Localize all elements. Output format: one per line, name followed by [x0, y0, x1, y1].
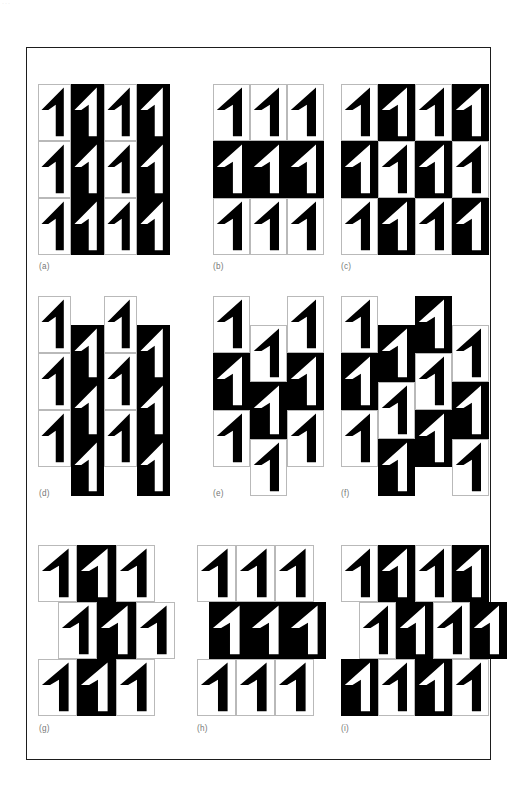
figure-b-cell-r1c3 [287, 84, 324, 141]
figure-i-cell-r3c2 [378, 659, 415, 716]
numeral-one-glyph [39, 85, 70, 140]
figure-d-cell-r1c1 [38, 296, 71, 353]
figure-e-cell-r2c1 [213, 353, 250, 410]
figure-e-cell-r3c2 [250, 439, 287, 496]
numeral-one-glyph [342, 199, 377, 254]
numeral-one-glyph [138, 383, 169, 438]
figure-c-cell-r3c3 [415, 198, 452, 255]
numeral-one-glyph [276, 546, 313, 601]
numeral-one-glyph [198, 660, 235, 715]
figure-g-cell-r3c2 [77, 659, 116, 716]
numeral-one-glyph [342, 85, 377, 140]
figure-f-cell-r2c4 [452, 382, 489, 439]
figure-g-cell-r2c1 [58, 602, 97, 659]
figure-a-cell-r2c3 [104, 141, 137, 198]
numeral-one-glyph [342, 354, 377, 409]
figure-f-cell-r2c1 [341, 353, 378, 410]
figure-c-cell-r2c2 [378, 141, 415, 198]
figure-a-cell-r1c4 [137, 84, 170, 141]
figure-f-cell-r3c1 [341, 410, 378, 467]
numeral-one-glyph [39, 660, 76, 715]
figure-i-cell-r1c3 [415, 545, 452, 602]
figures-layer: (a)(b)(c)(d)(e)(f)(g)(h)(i) [0, 0, 515, 796]
figure-e-cell-r1c2 [250, 325, 287, 382]
figure-f-cell-r1c3 [415, 296, 452, 353]
numeral-one-glyph [39, 546, 76, 601]
numeral-one-glyph [251, 85, 286, 140]
numeral-one-glyph [288, 411, 323, 466]
figure-h-cell-r3c3 [275, 659, 314, 716]
figure-i-cell-r3c1 [341, 659, 378, 716]
numeral-one-glyph [453, 440, 488, 495]
numeral-one-glyph [72, 383, 103, 438]
numeral-one-glyph [416, 297, 451, 352]
figure-c-cell-r3c1 [341, 198, 378, 255]
numeral-one-glyph [416, 660, 451, 715]
figure-f-cell-r3c4 [452, 439, 489, 496]
numeral-one-glyph [237, 660, 274, 715]
numeral-one-glyph [379, 199, 414, 254]
figure-d-cell-r2c3 [104, 353, 137, 410]
figure-h-cell-r1c2 [236, 545, 275, 602]
numeral-one-glyph [137, 603, 174, 658]
numeral-one-glyph [214, 297, 249, 352]
numeral-one-glyph [342, 297, 377, 352]
numeral-one-glyph [39, 297, 70, 352]
figure-g-cell-r2c3 [136, 602, 175, 659]
figure-d-cell-r1c2 [71, 325, 104, 382]
figure-g-cell-r1c2 [77, 545, 116, 602]
numeral-one-glyph [39, 199, 70, 254]
numeral-one-glyph [288, 142, 323, 197]
figure-i-cell-r1c2 [378, 545, 415, 602]
figure-c-cell-r1c3 [415, 84, 452, 141]
figure-a-cell-r1c3 [104, 84, 137, 141]
figure-a-cell-r3c3 [104, 198, 137, 255]
numeral-one-glyph [416, 354, 451, 409]
numeral-one-glyph [342, 660, 377, 715]
numeral-one-glyph [342, 546, 377, 601]
figure-e-cell-r1c3 [287, 296, 324, 353]
numeral-one-glyph [288, 199, 323, 254]
figure-d-cell-r3c2 [71, 439, 104, 496]
numeral-one-glyph [214, 85, 249, 140]
numeral-one-glyph [453, 383, 488, 438]
figure-a-cell-r3c1 [38, 198, 71, 255]
figure-a-cell-r2c4 [137, 141, 170, 198]
numeral-one-glyph [105, 85, 136, 140]
figure-h-cell-r2c2 [248, 602, 287, 659]
figure-g-cell-r3c3 [116, 659, 155, 716]
figure-c-cell-r3c4 [452, 198, 489, 255]
figure-b-cell-r3c3 [287, 198, 324, 255]
figure-b-cell-r1c2 [250, 84, 287, 141]
figure-a-cell-r2c2 [71, 141, 104, 198]
figure-b-cell-r3c2 [250, 198, 287, 255]
numeral-one-glyph [72, 199, 103, 254]
figure-label-i: (i) [341, 724, 349, 733]
numeral-one-glyph [453, 142, 488, 197]
numeral-one-glyph [379, 546, 414, 601]
figure-g-cell-r1c3 [116, 545, 155, 602]
figure-i-cell-r1c1 [341, 545, 378, 602]
figure-h-cell-r2c3 [287, 602, 326, 659]
numeral-one-glyph [105, 297, 136, 352]
figure-b-cell-r2c1 [213, 141, 250, 198]
numeral-one-glyph [249, 603, 286, 658]
figure-d-cell-r3c1 [38, 410, 71, 467]
figure-c-cell-r1c2 [378, 84, 415, 141]
figure-i-cell-r2c2 [396, 602, 433, 659]
figure-f-cell-r1c4 [452, 325, 489, 382]
numeral-one-glyph [72, 326, 103, 381]
numeral-one-glyph [214, 411, 249, 466]
numeral-one-glyph [105, 142, 136, 197]
numeral-one-glyph [360, 603, 395, 658]
figure-d-cell-r3c3 [104, 410, 137, 467]
figure-h-cell-r3c2 [236, 659, 275, 716]
figure-h-cell-r2c1 [209, 602, 248, 659]
figure-g-cell-r1c1 [38, 545, 77, 602]
numeral-one-glyph [416, 199, 451, 254]
figure-b-cell-r3c1 [213, 198, 250, 255]
numeral-one-glyph [379, 660, 414, 715]
numeral-one-glyph [105, 354, 136, 409]
figure-a-cell-r2c1 [38, 141, 71, 198]
numeral-one-glyph [39, 142, 70, 197]
